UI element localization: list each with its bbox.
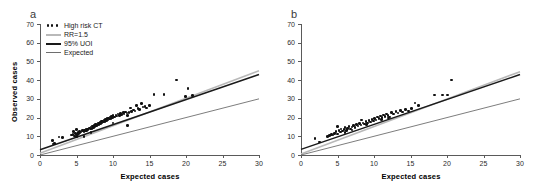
x-tick-label: 15 xyxy=(142,160,158,167)
x-tick xyxy=(338,155,339,158)
data-point xyxy=(387,117,390,120)
data-point xyxy=(61,136,64,139)
legend-item-label: High risk CT xyxy=(64,21,103,30)
data-point xyxy=(126,114,129,117)
data-point xyxy=(314,137,317,140)
legend-item-high-risk-ct: High risk CT xyxy=(46,21,103,30)
data-point xyxy=(417,104,420,107)
x-axis-title-b: Expected cases xyxy=(301,172,521,181)
x-tick xyxy=(186,155,187,158)
dot-glyph xyxy=(47,24,49,26)
legend-line-icon xyxy=(46,48,61,57)
legend-line-icon xyxy=(46,30,61,39)
data-point xyxy=(138,108,141,111)
y-tick-label: 10 xyxy=(279,133,295,140)
legend-item-rr-1-5: RR=1.5 xyxy=(46,30,103,39)
x-tick xyxy=(411,155,412,158)
plot-area-b: 010203040506070051015202530 xyxy=(301,24,520,155)
line-95-uoi xyxy=(301,75,520,150)
y-tick-label: 0 xyxy=(18,152,34,159)
data-point xyxy=(145,107,148,110)
x-tick-label: 20 xyxy=(439,160,455,167)
data-point xyxy=(344,131,347,134)
x-tick-label: 25 xyxy=(215,160,231,167)
data-point xyxy=(360,119,363,122)
data-point xyxy=(126,124,129,127)
line-rr-1-5 xyxy=(301,72,520,154)
data-point xyxy=(384,115,387,118)
x-tick-label: 5 xyxy=(330,160,346,167)
line-swatch-icon xyxy=(46,52,61,53)
x-tick-label: 30 xyxy=(512,160,528,167)
x-tick-label: 15 xyxy=(403,160,419,167)
data-point xyxy=(365,123,368,126)
data-point xyxy=(354,126,357,129)
dots-icon xyxy=(46,24,61,27)
x-tick-label: 10 xyxy=(105,160,121,167)
legend-item-expected: Expected xyxy=(46,48,103,57)
x-tick-label: 30 xyxy=(251,160,267,167)
x-tick xyxy=(374,155,375,158)
legend-line-icon xyxy=(46,39,61,48)
figure-container: a Observed cases Expected cases 01020304… xyxy=(0,0,536,188)
x-tick-label: 0 xyxy=(293,160,309,167)
legend-item-95-uoi: 95% UOI xyxy=(46,39,103,48)
y-axis-title-a: Observed cases xyxy=(10,62,19,122)
y-tick-label: 70 xyxy=(279,21,295,28)
dot-glyph xyxy=(51,24,53,26)
panel-b: b Expected cases 01020304050607005101520… xyxy=(268,0,536,188)
data-point xyxy=(407,110,410,113)
x-tick-label: 0 xyxy=(32,160,48,167)
y-tick-label: 60 xyxy=(279,39,295,46)
legend-item-label: RR=1.5 xyxy=(64,30,88,39)
line-swatch-icon xyxy=(46,43,61,45)
data-point xyxy=(410,107,413,110)
y-tick-label: 30 xyxy=(18,95,34,102)
data-point xyxy=(336,125,339,128)
data-point xyxy=(148,104,151,107)
y-tick-label: 70 xyxy=(18,21,34,28)
x-tick xyxy=(77,155,78,158)
x-tick xyxy=(259,155,260,158)
y-tick-label: 40 xyxy=(18,77,34,84)
x-tick-label: 25 xyxy=(476,160,492,167)
x-tick xyxy=(223,155,224,158)
x-tick xyxy=(447,155,448,158)
x-tick xyxy=(301,155,302,158)
x-tick-label: 10 xyxy=(366,160,382,167)
x-tick-label: 20 xyxy=(178,160,194,167)
y-tick-label: 50 xyxy=(18,58,34,65)
panel-letter-b: b xyxy=(291,8,297,20)
y-tick-label: 0 xyxy=(279,152,295,159)
x-tick-label: 5 xyxy=(69,160,85,167)
y-tick-label: 20 xyxy=(279,114,295,121)
legend-item-label: Expected xyxy=(64,48,93,57)
data-point xyxy=(53,142,56,145)
y-tick-label: 20 xyxy=(18,114,34,121)
data-point xyxy=(140,102,143,105)
line-95-uoi xyxy=(40,75,259,150)
y-tick-label: 50 xyxy=(279,58,295,65)
data-point xyxy=(401,111,404,114)
x-tick xyxy=(40,155,41,158)
y-tick-label: 10 xyxy=(18,133,34,140)
dot-glyph xyxy=(56,24,58,26)
line-expected xyxy=(40,99,259,155)
panel-a: a Observed cases Expected cases 01020304… xyxy=(0,0,268,188)
y-tick-label: 30 xyxy=(279,95,295,102)
x-tick xyxy=(113,155,114,158)
x-tick xyxy=(484,155,485,158)
x-axis-title-a: Expected cases xyxy=(40,172,260,181)
y-tick-label: 40 xyxy=(279,77,295,84)
legend-a: High risk CTRR=1.595% UOIExpected xyxy=(46,21,103,57)
data-point xyxy=(153,93,156,96)
data-point xyxy=(75,135,78,138)
y-tick-label: 60 xyxy=(18,39,34,46)
data-point xyxy=(191,94,194,97)
x-tick xyxy=(150,155,151,158)
legend-marker-dots-icon xyxy=(46,21,61,30)
line-swatch-icon xyxy=(46,34,61,36)
data-point xyxy=(184,95,187,98)
data-point xyxy=(380,118,383,121)
x-tick xyxy=(520,155,521,158)
